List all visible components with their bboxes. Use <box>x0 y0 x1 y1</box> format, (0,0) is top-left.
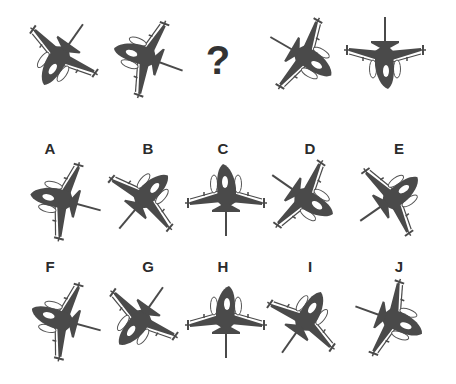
sequence-jet-1 <box>15 12 105 102</box>
option-jet-g[interactable] <box>95 275 185 365</box>
option-jet-j[interactable] <box>348 275 438 365</box>
option-jet-c[interactable] <box>181 151 271 241</box>
option-jet-b[interactable] <box>100 153 190 243</box>
option-jet-a[interactable] <box>17 155 107 245</box>
option-jet-h[interactable] <box>181 273 271 363</box>
option-label-b[interactable]: B <box>143 141 154 156</box>
option-jet-f[interactable] <box>17 275 107 365</box>
fighter-jet-icon <box>100 153 190 243</box>
fighter-jet-icon <box>348 153 438 243</box>
option-label-c[interactable]: C <box>218 141 229 156</box>
fighter-jet-icon <box>17 275 107 365</box>
fighter-jet-icon <box>181 273 271 363</box>
option-label-a[interactable]: A <box>45 141 56 156</box>
option-label-f[interactable]: F <box>45 259 54 274</box>
fighter-jet-icon <box>15 12 105 102</box>
option-label-d[interactable]: D <box>305 141 316 156</box>
sequence-jet-2 <box>100 12 190 102</box>
option-label-g[interactable]: G <box>142 259 154 274</box>
fighter-jet-icon <box>260 275 350 365</box>
fighter-jet-icon <box>260 153 350 243</box>
sequence-jet-4 <box>260 12 350 102</box>
fighter-jet-icon <box>17 155 107 245</box>
fighter-jet-icon <box>181 151 271 241</box>
option-label-h[interactable]: H <box>218 259 229 274</box>
option-jet-d[interactable] <box>260 153 350 243</box>
fighter-jet-icon <box>260 12 350 102</box>
missing-item-question-mark: ? <box>206 40 230 80</box>
fighter-jet-icon <box>95 275 185 365</box>
option-jet-i[interactable] <box>260 275 350 365</box>
fighter-jet-icon <box>100 12 190 102</box>
fighter-jet-icon <box>348 275 438 365</box>
option-label-j[interactable]: J <box>395 259 403 274</box>
option-label-i[interactable]: I <box>308 259 312 274</box>
fighter-jet-icon <box>340 12 430 102</box>
sequence-jet-5 <box>340 12 430 102</box>
option-jet-e[interactable] <box>348 153 438 243</box>
option-label-e[interactable]: E <box>394 141 404 156</box>
